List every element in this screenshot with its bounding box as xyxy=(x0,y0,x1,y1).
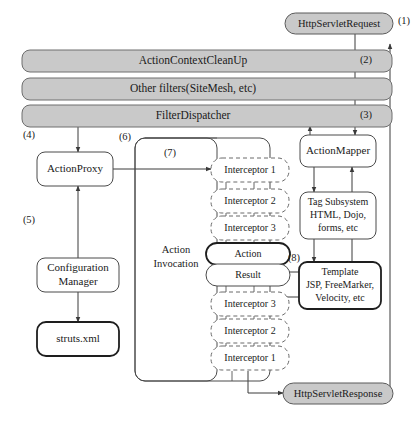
node-interceptor-1-out[interactable]: Interceptor 1 xyxy=(211,346,289,370)
interceptor-label: Interceptor 1 xyxy=(224,164,275,175)
node-filter-bar-otherfilters[interactable]: Other filters(SiteMesh, etc) xyxy=(22,78,392,100)
actionproxy-label: ActionProxy xyxy=(47,162,104,174)
action-invocation-label-line1: Action xyxy=(162,244,191,255)
interceptor-label: Interceptor 2 xyxy=(224,195,275,206)
tag-subsystem-label-line3: forms, etc xyxy=(318,222,359,233)
httpservletresponse-label: HttpServletResponse xyxy=(294,388,383,399)
node-interceptor-2-in[interactable]: Interceptor 2 xyxy=(211,189,289,213)
node-tag-subsystem[interactable]: Tag Subsystem HTML, Dojo, forms, etc xyxy=(300,192,376,239)
actionmapper-label: ActionMapper xyxy=(306,144,370,156)
node-interceptor-3-out[interactable]: Interceptor 3 xyxy=(211,292,289,316)
template-label-line3: Velocity, etc xyxy=(315,292,365,303)
node-struts-xml[interactable]: struts.xml xyxy=(37,322,119,356)
action-invocation-label-line2: Invocation xyxy=(154,258,200,269)
struts-architecture-diagram: HttpServletRequest ActionContextCleanUp … xyxy=(0,0,415,431)
step-label-4: (4) xyxy=(23,129,36,141)
filter-bar-label: FilterDispatcher xyxy=(156,109,231,122)
node-template[interactable]: Template JSP, FreeMarker, Velocity, etc xyxy=(299,262,381,309)
filter-bar-label: Other filters(SiteMesh, etc) xyxy=(130,82,256,95)
configuration-manager-label-line2: Manager xyxy=(58,275,97,287)
tag-subsystem-label-line2: HTML, Dojo, xyxy=(310,209,366,220)
interceptor-label: Interceptor 2 xyxy=(224,325,275,336)
httpservletrequest-label: HttpServletRequest xyxy=(298,18,380,29)
step-label-8: (8) xyxy=(288,252,301,264)
node-actionmapper[interactable]: ActionMapper xyxy=(300,135,376,167)
template-label-line1: Template xyxy=(321,266,359,277)
node-configuration-manager[interactable]: Configuration Manager xyxy=(37,258,119,292)
node-interceptor-2-out[interactable]: Interceptor 2 xyxy=(211,319,289,343)
node-filter-bar-actioncontextcleanup[interactable]: ActionContextCleanUp xyxy=(22,50,392,72)
step-label-2: (2) xyxy=(360,54,373,66)
struts-xml-label: struts.xml xyxy=(56,332,100,344)
node-httpservletresponse[interactable]: HttpServletResponse xyxy=(283,383,393,404)
configuration-manager-label-line1: Configuration xyxy=(47,261,109,273)
step-label-5: (5) xyxy=(23,214,36,226)
node-interceptor-1-in[interactable]: Interceptor 1 xyxy=(211,158,289,182)
step-label-1: (1) xyxy=(398,15,411,27)
result-label: Result xyxy=(235,269,261,280)
edge-interceptor1-to-response xyxy=(248,371,283,393)
tag-subsystem-label-line1: Tag Subsystem xyxy=(308,196,369,207)
node-filter-bar-filterdispatcher[interactable]: FilterDispatcher xyxy=(22,105,392,127)
interceptor-label: Interceptor 1 xyxy=(224,352,275,363)
template-label-line2: JSP, FreeMarker, xyxy=(306,279,374,290)
diagram-canvas: HttpServletRequest ActionContextCleanUp … xyxy=(0,0,415,431)
node-actionproxy[interactable]: ActionProxy xyxy=(37,152,113,186)
node-result[interactable]: Result xyxy=(206,264,290,286)
action-label: Action xyxy=(234,248,261,259)
step-label-3: (3) xyxy=(360,109,373,121)
filter-bar-label: ActionContextCleanUp xyxy=(139,54,248,67)
interceptor-label: Interceptor 3 xyxy=(224,298,275,309)
step-label-7: (7) xyxy=(164,147,177,159)
node-action[interactable]: Action xyxy=(206,243,290,265)
step-label-6: (6) xyxy=(119,131,132,143)
interceptor-label: Interceptor 3 xyxy=(224,222,275,233)
node-httpservletrequest[interactable]: HttpServletRequest xyxy=(285,13,393,34)
node-interceptor-3-in[interactable]: Interceptor 3 xyxy=(211,216,289,240)
